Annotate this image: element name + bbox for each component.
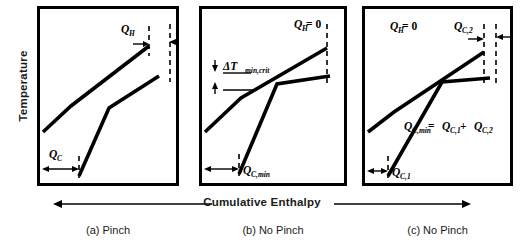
panel-b-dtmin-label: ΔT bbox=[222, 60, 238, 72]
panel-b-qcmin-sub: C,min bbox=[251, 170, 270, 179]
panel-c-qh-value: = 0 bbox=[402, 20, 417, 32]
panel-c-equation-plus: + bbox=[460, 120, 467, 132]
panel-b-plot: Q H = 0 ΔT min,crit Q C,min bbox=[199, 6, 347, 186]
panel-c-frame bbox=[364, 8, 512, 185]
panel-b-caption: (b) No Pinch bbox=[200, 224, 346, 236]
pinch-analysis-figure: Temperature Q H Q C bbox=[0, 0, 524, 252]
panel-c-qc2-sub: C,2 bbox=[462, 26, 473, 35]
panel-c-caption: (c) No Pinch bbox=[363, 224, 512, 236]
panel-b-qh-value: = 0 bbox=[306, 18, 321, 30]
panel-c-equation-q2-sub: C,2 bbox=[482, 126, 493, 135]
panel-c-equation-eq: = bbox=[428, 120, 435, 132]
y-axis-label: Temperature bbox=[17, 26, 29, 146]
panel-a-plot: Q H Q C bbox=[37, 6, 179, 186]
panel-c-qc1-sub: C,1 bbox=[400, 172, 411, 181]
panel-a-qh-sub: H bbox=[128, 29, 136, 38]
panel-b-dtmin-sub: min,crit bbox=[245, 66, 270, 75]
x-axis-label: Cumulative Enthalpy bbox=[0, 196, 524, 208]
panel-c-plot: Q H = 0 Q C,2 Q C,min = Q C,1 + Q C,2 Q … bbox=[362, 6, 513, 186]
panel-a-caption: (a) Pinch bbox=[38, 224, 178, 236]
